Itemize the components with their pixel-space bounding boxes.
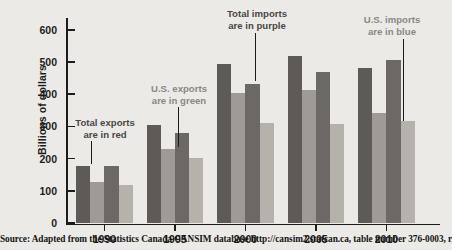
x-tick-mark-1995 bbox=[174, 224, 176, 231]
annotation-line-1: Total imports bbox=[207, 8, 307, 20]
x-tick-mark-2005 bbox=[315, 224, 317, 231]
x-axis-line bbox=[66, 224, 440, 226]
bar-2010-total-imports bbox=[386, 60, 400, 224]
y-tick-label: 600 bbox=[39, 24, 57, 36]
y-tick-mark bbox=[68, 29, 75, 31]
annotation-line-2: are in green bbox=[132, 95, 226, 107]
bar-2000-u-s-imports bbox=[260, 123, 274, 223]
y-tick-mark bbox=[68, 190, 75, 192]
bar-1990-u-s-exports bbox=[90, 182, 104, 223]
bar-2000-total-imports bbox=[245, 84, 259, 223]
y-tick-label: 100 bbox=[39, 185, 57, 197]
bar-2005-total-imports bbox=[316, 72, 330, 223]
y-tick-label: 500 bbox=[39, 56, 57, 68]
annotation-leader-line-us-imports bbox=[403, 39, 404, 121]
annotation-line-2: are in purple bbox=[207, 20, 307, 32]
y-tick-mark bbox=[68, 222, 75, 224]
bar-1990-u-s-imports bbox=[119, 185, 133, 223]
annotation-line-2: are in red bbox=[58, 129, 152, 141]
bar-2010-u-s-exports bbox=[372, 113, 386, 223]
bar-2005-u-s-exports bbox=[302, 90, 316, 223]
annotation-leader-line-total-imports bbox=[255, 33, 256, 81]
x-tick-mark-2000 bbox=[245, 224, 247, 231]
chart-figure: Billions of dollars 0100200300400500600 … bbox=[0, 0, 452, 250]
y-axis-title: Billions of dollars bbox=[36, 30, 48, 190]
bar-1990-total-imports bbox=[104, 166, 118, 223]
annotation-leader-line-us-exports bbox=[178, 107, 179, 147]
bar-2010-u-s-imports bbox=[401, 121, 415, 223]
bar-1990-total-exports bbox=[76, 166, 90, 223]
annotation-line-1: U.S. imports bbox=[342, 14, 442, 26]
annotation-total-imports: Total importsare in purple bbox=[207, 8, 307, 32]
y-tick-mark bbox=[68, 61, 75, 63]
source-note: Source: Adapted from the Statistics Cana… bbox=[0, 234, 452, 244]
bar-2000-u-s-exports bbox=[231, 93, 245, 223]
bar-2010-total-exports bbox=[358, 68, 372, 223]
annotation-line-1: Total exports bbox=[58, 117, 152, 129]
y-tick-label: 300 bbox=[39, 120, 57, 132]
annotation-us-exports: U.S. exportsare in green bbox=[132, 83, 226, 107]
y-tick-label: 0 bbox=[51, 217, 57, 229]
bar-2005-u-s-imports bbox=[330, 124, 344, 223]
x-tick-mark-2010 bbox=[386, 224, 388, 231]
y-tick-label: 200 bbox=[39, 153, 57, 165]
bar-2005-total-exports bbox=[288, 56, 302, 223]
bar-1995-u-s-exports bbox=[161, 149, 175, 223]
annotation-line-1: U.S. exports bbox=[132, 83, 226, 95]
annotation-line-2: are in blue bbox=[342, 26, 442, 38]
bar-1995-u-s-imports bbox=[189, 158, 203, 223]
y-tick-label: 400 bbox=[39, 88, 57, 100]
y-tick-mark bbox=[68, 158, 75, 160]
y-tick-mark bbox=[68, 93, 75, 95]
annotation-leader-line-total-exports bbox=[91, 141, 92, 164]
annotation-us-imports: U.S. importsare in blue bbox=[342, 14, 442, 38]
annotation-total-exports: Total exportsare in red bbox=[58, 117, 152, 141]
x-tick-mark-1990 bbox=[104, 224, 106, 231]
